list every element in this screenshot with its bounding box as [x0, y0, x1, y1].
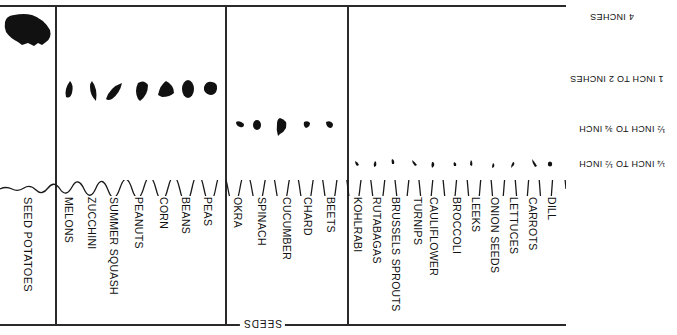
divider-potatoes [55, 5, 57, 325]
label-beets: BEETS [325, 197, 336, 233]
label-lettuces: LETTUCES [508, 197, 519, 254]
label-kohlrabi: KOHLRABI [352, 197, 363, 253]
label-cucumber: CUCUMBER [281, 197, 292, 260]
leek-seed-icon [470, 160, 472, 166]
soil-surface-line [0, 180, 566, 196]
label-peas: PEAS [202, 197, 213, 226]
dill-seed-icon [548, 161, 552, 166]
okra-seed-icon [236, 121, 244, 127]
label-carrots: CARROTS [527, 197, 538, 250]
label-leeks: LEEKS [470, 197, 481, 232]
zucchini-seed-icon [90, 81, 97, 101]
summer-squash-seed-icon [106, 83, 122, 100]
label-peanuts: PEANUTS [133, 197, 144, 249]
label-rutabagas: RUTABAGAS [371, 197, 382, 264]
pea-seed-icon [204, 82, 217, 95]
broccoli-seed-icon [454, 162, 457, 166]
large-seeds-row [60, 75, 225, 107]
label-spinach: SPINACH [256, 197, 267, 246]
carrot-seed-icon [532, 159, 537, 167]
label-melons: MELONS [63, 197, 74, 243]
label-beans: BEANS [180, 197, 191, 234]
label-cauliflower: CAULIFLOWER [428, 197, 439, 276]
label-onion-seeds: ONION SEEDS [489, 197, 500, 273]
lettuce-seed-icon [511, 162, 514, 168]
label-chard: CHARD [302, 197, 313, 236]
turnip-seed-icon [412, 160, 417, 166]
label-turnips: TURNIPS [412, 197, 423, 245]
label-dill: DILL [546, 197, 557, 220]
seed-potato-icon [2, 12, 52, 48]
divider-medium-seeds [347, 5, 349, 325]
depth-label-4-inches: 4 INCHES [590, 12, 634, 22]
label-zucchini: ZUCCHINI [86, 197, 97, 250]
label-broccoli: BROCCOLI [451, 197, 462, 254]
top-border [0, 5, 566, 7]
chard-seed-icon [304, 121, 310, 128]
label-corn: CORN [158, 197, 169, 229]
label-seed-potatoes: SEED POTATOES [22, 197, 33, 292]
onion-seed-icon [492, 163, 494, 168]
peanut-seed-icon [136, 81, 148, 101]
small-seeds-row [350, 155, 565, 173]
divider-large-seeds [225, 5, 227, 325]
label-okra: OKRA [232, 197, 243, 228]
rutabaga-seed-icon [374, 161, 377, 167]
spinach-seed-icon [253, 120, 261, 130]
depth-label-quarter-to-half-inch: ¼ INCH TO ½ INCH [579, 159, 665, 169]
melon-seed-icon [66, 81, 73, 98]
beet-seed-icon [326, 121, 333, 128]
kohlrabi-seed-icon [355, 161, 359, 166]
depth-label-1-to-2-inches: 1 INCH TO 2 INCHES [570, 74, 664, 84]
medium-seeds-row [230, 112, 345, 140]
corn-seed-icon [158, 81, 174, 97]
depth-label-half-to-three-quarter-inch: ½ INCH TO ¾ INCH [579, 124, 665, 134]
seeds-caption: SEEDS [240, 318, 285, 329]
brussels-sprout-seed-icon [392, 159, 395, 164]
bean-seed-icon [182, 80, 194, 98]
cucumber-seed-icon [277, 118, 287, 136]
label-summer-squash: SUMMER SQUASH [108, 197, 119, 295]
label-brussels-sprouts: BRUSSELS SPROUTS [390, 197, 401, 312]
cauliflower-seed-icon [432, 162, 435, 168]
